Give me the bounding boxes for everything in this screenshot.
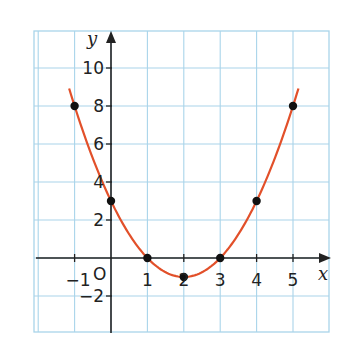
y-tick-label: 8	[93, 96, 104, 116]
data-point	[216, 254, 224, 262]
x-tick-label: 3	[215, 270, 226, 290]
x-tick-label: 1	[142, 270, 153, 290]
origin-label: O	[93, 264, 106, 284]
data-point	[143, 254, 151, 262]
data-point	[289, 102, 297, 110]
data-point	[70, 102, 78, 110]
y-tick-label: 4	[93, 172, 104, 192]
x-axis-label: x	[318, 263, 328, 284]
data-point	[252, 197, 260, 205]
data-point	[107, 197, 115, 205]
y-tick-label: 6	[93, 134, 104, 154]
x-tick-label: 2	[178, 270, 189, 290]
y-tick-label: 2	[93, 210, 104, 230]
y-tick-label: 10	[82, 58, 104, 78]
y-axis-arrow-icon	[106, 31, 116, 43]
x-tick-label: 4	[251, 270, 262, 290]
y-tick-label: −2	[79, 286, 104, 306]
x-tick-label: 5	[288, 270, 299, 290]
y-axis-label: y	[86, 28, 98, 49]
parabola-chart: −112345108642−2 x y O	[0, 0, 345, 354]
